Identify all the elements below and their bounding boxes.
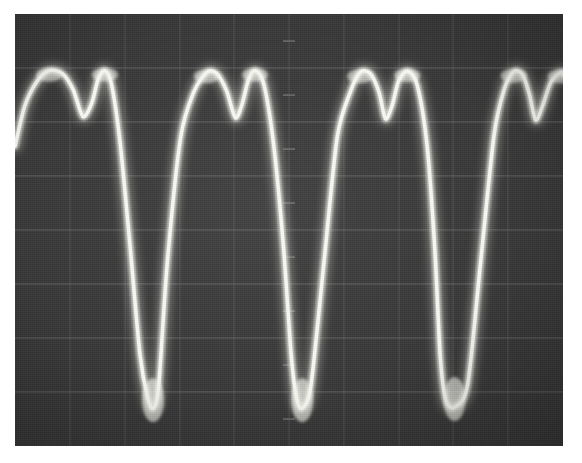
crest-bloom	[501, 69, 527, 83]
crest-bloom	[194, 69, 220, 83]
trough-bloom	[291, 378, 313, 422]
trace-core	[15, 14, 563, 446]
trough-bloom	[142, 378, 164, 422]
crest-bloom	[347, 69, 373, 83]
crest-bloom	[92, 68, 118, 82]
oscilloscope-screen	[15, 14, 563, 446]
crest-bloom	[242, 68, 268, 82]
trace-core-path	[15, 70, 563, 408]
trough-bloom	[444, 377, 466, 421]
screenshot-root: Oscilloscope screen photograph of a repe…	[0, 0, 582, 463]
crest-bloom	[36, 68, 62, 82]
crest-bloom	[394, 68, 420, 82]
